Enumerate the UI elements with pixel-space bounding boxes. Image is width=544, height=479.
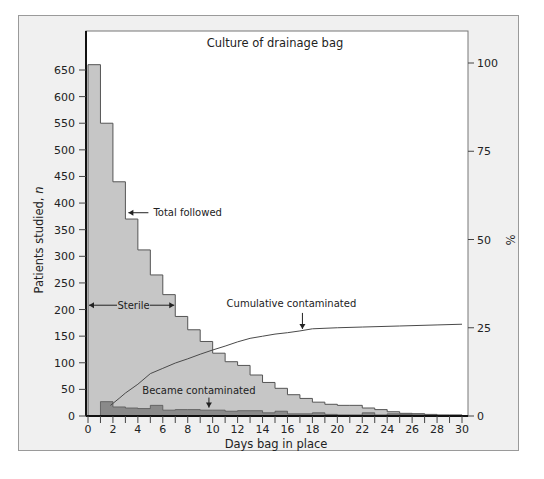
annotation-label: Cumulative contaminated [227,298,357,309]
x-tick-label: 12 [231,423,245,436]
right-y-axis-title: % [503,235,517,246]
annotation-label: Sterile [117,300,149,311]
x-tick-label: 0 [85,423,92,436]
x-tick-label: 2 [109,423,116,436]
x-tick-label: 6 [159,423,166,436]
y-axis-title: Patients studied, n [32,187,46,294]
y-tick-label: 50 [61,383,75,396]
y-tick-label: 450 [54,170,75,183]
y-tick-label: 100 [54,357,75,370]
right-y-tick-label: 25 [477,322,491,335]
y-tick-label: 150 [54,330,75,343]
y-tick-label: 300 [54,250,75,263]
x-axis-title: Days bag in place [225,437,328,451]
chart-canvas: 0501001502002503003504004505005506006500… [0,0,544,479]
x-tick-label: 20 [330,423,344,436]
right-y-tick-label: 50 [477,234,491,247]
x-tick-label: 8 [184,423,191,436]
y-tick-label: 600 [54,91,75,104]
x-tick-label: 10 [206,423,220,436]
y-tick-label: 500 [54,144,75,157]
right-y-tick-label: 75 [477,145,491,158]
x-tick-label: 16 [280,423,294,436]
right-y-tick-label: 100 [477,57,498,70]
x-tick-label: 18 [305,423,319,436]
y-tick-label: 550 [54,117,75,130]
chart-title: Culture of drainage bag [207,36,344,50]
x-tick-label: 24 [380,423,394,436]
x-tick-label: 14 [256,423,270,436]
annotation-label: Total followed [152,207,222,218]
y-tick-label: 0 [68,410,75,423]
x-tick-label: 4 [134,423,141,436]
x-tick-label: 30 [455,423,469,436]
y-tick-label: 400 [54,197,75,210]
right-y-tick-label: 0 [477,410,484,423]
x-tick-label: 26 [405,423,419,436]
y-tick-label: 200 [54,304,75,317]
y-tick-label: 650 [54,64,75,77]
annotation-label: Became contaminated [142,385,255,396]
x-tick-label: 28 [430,423,444,436]
y-tick-label: 250 [54,277,75,290]
x-tick-label: 22 [355,423,369,436]
y-tick-label: 350 [54,224,75,237]
